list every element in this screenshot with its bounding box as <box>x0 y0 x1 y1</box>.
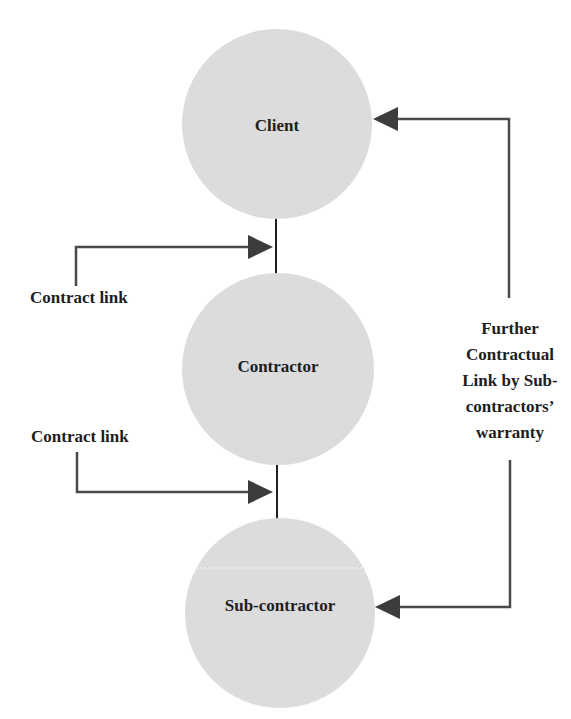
contract-link-label-lower: Contract link <box>31 427 129 447</box>
warranty-arrow-lower <box>375 460 510 619</box>
arrow-left-icon <box>373 107 398 131</box>
sub-contractor-label: Sub-contractor <box>225 596 336 615</box>
warranty-label-line-4: contractors’ <box>452 394 568 420</box>
node-sub-contractor: Sub-contractor <box>185 518 375 708</box>
client-label: Client <box>255 116 300 135</box>
contractor-label: Contractor <box>237 357 319 376</box>
contract-link-label-upper: Contract link <box>30 288 128 308</box>
warranty-label-line-3: Link by Sub- <box>452 368 568 394</box>
contract-link-arrow-lower <box>77 452 273 504</box>
contract-link-arrow-lower-line <box>77 452 252 492</box>
warranty-label-line-2: Contractual <box>452 342 568 368</box>
arrow-right-icon <box>248 480 273 504</box>
warranty-arrow-lower-line <box>398 460 510 607</box>
warranty-arrow-upper <box>373 107 509 298</box>
warranty-link-label: Further Contractual Link by Sub- contrac… <box>452 316 568 446</box>
contract-link-arrow-upper-line <box>76 247 252 286</box>
warranty-arrow-upper-line <box>396 119 509 298</box>
contract-link-arrow-upper <box>76 235 273 286</box>
warranty-label-line-1: Further <box>452 316 568 342</box>
node-contractor: Contractor <box>182 273 374 465</box>
arrow-right-icon <box>248 235 273 259</box>
node-client: Client <box>182 29 372 219</box>
warranty-label-line-5: warranty <box>452 420 568 446</box>
arrow-left-icon <box>375 595 400 619</box>
